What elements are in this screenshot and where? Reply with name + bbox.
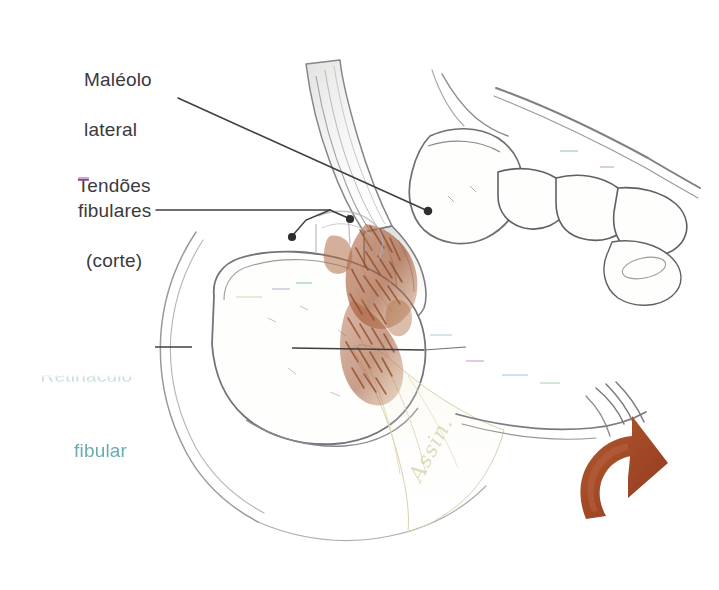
eversion-arrow	[580, 416, 668, 519]
arrow-layer	[0, 0, 719, 590]
anatomical-figure: Maléolo lateral Tendões fibulares (corte…	[0, 0, 719, 590]
